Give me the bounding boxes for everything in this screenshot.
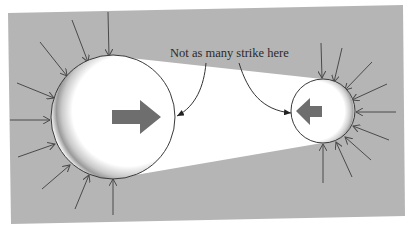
diagram-canvas: Not as many strike here: [0, 0, 412, 233]
particle-shielding-diagram: Not as many strike here: [0, 0, 412, 233]
annotation-text: Not as many strike here: [170, 46, 289, 60]
